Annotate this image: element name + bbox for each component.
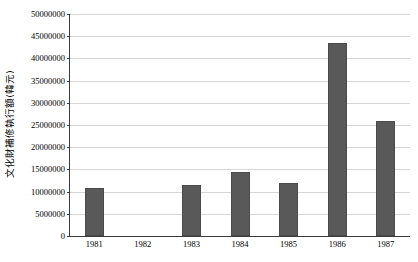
y-axis-tick-label: 20000000 xyxy=(31,142,65,152)
y-axis-tick-label: 15000000 xyxy=(31,164,65,174)
bar-slot xyxy=(119,14,168,236)
y-axis-title-label: 文化財補修執行額(韓元) xyxy=(2,70,16,177)
bar-slot xyxy=(70,14,119,236)
x-axis-tick-label: 1986 xyxy=(313,239,362,249)
bar-slot xyxy=(264,14,313,236)
x-axis-tick-label: 1987 xyxy=(361,239,410,249)
y-axis-tick-label: 50000000 xyxy=(31,9,65,19)
bar-slot xyxy=(167,14,216,236)
y-axis-tick-label: 30000000 xyxy=(31,98,65,108)
bar-chart: 文化財補修執行額(韓元) 050000001000000015000000200… xyxy=(0,0,418,262)
x-axis-tick-label: 1984 xyxy=(216,239,265,249)
bar-slot xyxy=(313,14,362,236)
x-axis-tick-label: 1985 xyxy=(264,239,313,249)
y-axis-tick-label: 25000000 xyxy=(31,120,65,130)
y-axis-tick-label: 40000000 xyxy=(31,53,65,63)
y-axis-tick-label: 0 xyxy=(61,231,65,241)
bar xyxy=(85,188,104,236)
y-axis-tick-labels: 0500000010000000150000002000000025000000… xyxy=(16,0,68,248)
bar xyxy=(376,121,395,236)
x-axis-tick-label: 1982 xyxy=(119,239,168,249)
y-axis-tick-label: 5000000 xyxy=(35,209,65,219)
bars-layer xyxy=(70,14,410,236)
y-axis-tick-label: 45000000 xyxy=(31,31,65,41)
x-axis-tick-labels: 1981198219831984198519861987 xyxy=(70,239,410,249)
plot-area xyxy=(69,14,410,237)
y-axis-tick-label: 10000000 xyxy=(31,187,65,197)
bar-slot xyxy=(361,14,410,236)
bar-slot xyxy=(216,14,265,236)
bar xyxy=(328,43,347,236)
bar xyxy=(182,185,201,236)
gridline xyxy=(70,236,410,237)
y-axis-tick-label: 35000000 xyxy=(31,76,65,86)
y-axis-tick-mark xyxy=(67,236,70,237)
bar xyxy=(279,183,298,236)
x-axis-tick-label: 1981 xyxy=(70,239,119,249)
bar xyxy=(231,172,250,236)
x-axis-tick-label: 1983 xyxy=(167,239,216,249)
